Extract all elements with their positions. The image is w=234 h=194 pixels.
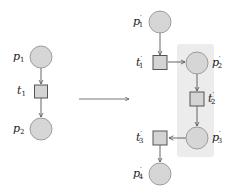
- label-t3-prime: t′3: [136, 130, 143, 145]
- label-p2-prime: p′2: [212, 55, 222, 70]
- label-p4-prime: p′4: [133, 166, 144, 181]
- label-p2: p2: [13, 122, 25, 136]
- place-p4-prime: [149, 163, 171, 185]
- place-p1-prime: [149, 11, 171, 33]
- label-p1: p1: [13, 50, 25, 64]
- label-t1-prime: t′1: [136, 55, 143, 70]
- label-t2-prime: t′2: [208, 91, 215, 106]
- label-p3-prime: p′3: [212, 130, 222, 145]
- label-p1-prime: p′1: [133, 14, 143, 29]
- right-net: p′1 t′1 p′2 t′2 p′3 t′3 p′4: [133, 11, 222, 185]
- transition-t1-prime: [153, 56, 167, 70]
- transition-t1: [35, 85, 48, 98]
- transition-t2-prime: [190, 92, 204, 106]
- place-p3-prime: [186, 127, 208, 149]
- place-p2: [30, 118, 52, 140]
- place-p1: [30, 46, 52, 68]
- label-t1: t1: [17, 84, 26, 98]
- petri-net-diagram: p1 t1 p2 p′1 t′1 p′2 t′2 p′3 t′3 p′4: [0, 0, 234, 194]
- transition-t3-prime: [153, 131, 167, 145]
- place-p2-prime: [186, 52, 208, 74]
- left-net: p1 t1 p2: [13, 46, 52, 140]
